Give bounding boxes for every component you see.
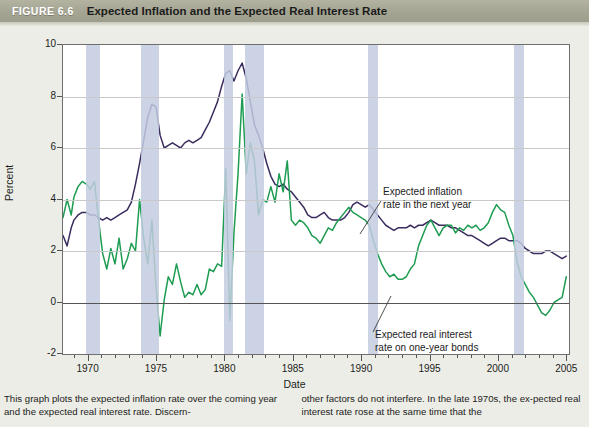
x-axis-tick-label: 1980 [204, 363, 244, 374]
gridline [63, 97, 569, 98]
x-axis-major-tick [224, 354, 225, 361]
figure-header-band: FIGURE 6.6 Expected Inflation and the Ex… [0, 0, 589, 22]
series-line-expected-inflation [63, 63, 566, 259]
x-axis-major-tick [361, 354, 362, 361]
x-axis-tick-label: 1995 [410, 363, 450, 374]
x-axis-tick-label: 2000 [478, 363, 518, 374]
caption-column-right: other factors do not interfere. In the l… [302, 392, 584, 427]
x-axis-major-tick [430, 354, 431, 361]
x-axis-major-tick [566, 354, 567, 361]
plot-inner [63, 45, 569, 354]
y-axis-tick-label: 6 [30, 141, 56, 152]
x-axis-tick-label: 1975 [136, 363, 176, 374]
figure-title: Expected Inflation and the Expected Real… [87, 5, 388, 17]
x-axis-tick-label: 1970 [68, 363, 108, 374]
x-axis-major-tick [88, 354, 89, 361]
figure-number-label: FIGURE 6.6 [12, 5, 74, 17]
caption-column-left: This graph plots the expected inflation … [4, 392, 286, 427]
plot-frame [62, 44, 570, 355]
gridline [63, 251, 569, 252]
annotation-expected-inflation: Expected inflation rate in the next year [383, 186, 471, 211]
x-axis-tick-label: 1990 [341, 363, 381, 374]
gridline [63, 148, 569, 149]
series-line-expected-real-rate [63, 94, 566, 336]
annotation-expected-real-rate: Expected real interest rate on one-year … [375, 329, 478, 354]
y-axis-tick-label: 4 [30, 193, 56, 204]
y-axis-tick-label: 10 [30, 38, 56, 49]
x-axis-major-tick [293, 354, 294, 361]
gridline [63, 200, 569, 201]
x-axis-tick-label: 1985 [273, 363, 313, 374]
x-axis-major-tick [498, 354, 499, 361]
y-axis-tick-label: -2 [30, 347, 56, 358]
chart-area: Percent Date 1086420-2 19701975198019851… [0, 26, 589, 388]
figure-container: FIGURE 6.6 Expected Inflation and the Ex… [0, 0, 589, 427]
y-axis-tick-label: 2 [30, 244, 56, 255]
y-axis-tick-label: 0 [30, 296, 56, 307]
figure-caption: This graph plots the expected inflation … [0, 390, 589, 427]
x-axis-title: Date [0, 378, 589, 390]
y-axis-title: Percent [3, 165, 15, 201]
x-axis-major-tick [156, 354, 157, 361]
x-axis-tick-label: 2005 [546, 363, 586, 374]
y-axis-tick-label: 8 [30, 90, 56, 101]
zero-line [63, 303, 569, 304]
